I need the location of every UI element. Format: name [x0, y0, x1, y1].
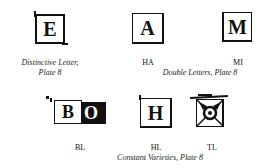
constant-caption: Constant Varieties, Plate 8	[100, 153, 220, 162]
stamp-letter-e: E	[35, 14, 65, 44]
letter-h: H	[148, 103, 164, 123]
plate-mark	[139, 95, 141, 100]
stamp-letter-o-block: O	[82, 102, 106, 124]
letter-m: M	[228, 17, 247, 37]
stamp-letter-a: A	[132, 13, 164, 44]
stamp-letter-h: H	[140, 98, 172, 128]
letter-a: A	[140, 18, 154, 38]
stamp-bo: B O	[52, 100, 108, 124]
plate-mark	[62, 43, 68, 45]
letter-e: E	[43, 19, 56, 39]
plate-mark	[198, 94, 212, 96]
distinctive-caption-line2: Plate 8	[8, 68, 92, 77]
constant-label-hl: HL	[144, 143, 168, 152]
letter-o: O	[84, 104, 98, 122]
plate-mark	[34, 11, 36, 17]
plate-mark	[50, 98, 52, 102]
letter-b: B	[62, 103, 74, 121]
constant-label-tl: TL	[200, 143, 224, 152]
distinctive-caption-line1: Distinctive Letter,	[8, 58, 92, 67]
stamp-letter-b: B	[54, 100, 82, 124]
double-label-mi: MI	[226, 58, 250, 67]
constant-label-bl: BL	[68, 143, 92, 152]
double-label-ha: HA	[136, 58, 160, 67]
damaged-ornament-icon	[197, 100, 223, 126]
stamp-ornament-tl	[196, 99, 224, 127]
plate-mark	[46, 96, 49, 99]
stamp-letter-m: M	[222, 12, 252, 42]
double-caption: Double Letters, Plate 8	[140, 68, 260, 77]
